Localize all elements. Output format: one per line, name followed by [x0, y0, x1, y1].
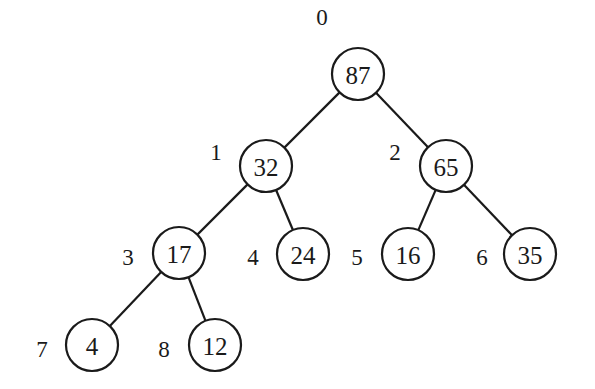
edge-1-3 [197, 184, 247, 234]
edge-3-8 [188, 277, 205, 321]
node-index-label: 5 [351, 245, 363, 270]
tree-node-4: 244 [247, 228, 329, 280]
tree-node-1: 321 [210, 140, 292, 193]
node-value: 12 [203, 333, 228, 360]
tree-edges [110, 92, 512, 326]
tree-node-8: 128 [158, 319, 241, 371]
heap-tree-diagram: 87032165217324416535647128 [0, 0, 595, 389]
node-value: 16 [396, 242, 421, 269]
node-value: 87 [346, 62, 371, 89]
tree-node-6: 356 [476, 228, 556, 280]
node-index-label: 6 [476, 245, 488, 270]
edge-1-4 [276, 190, 293, 230]
edge-0-1 [284, 92, 339, 147]
node-value: 4 [86, 333, 99, 360]
node-value: 17 [167, 241, 192, 268]
tree-nodes: 87032165217324416535647128 [36, 5, 556, 372]
edge-2-6 [464, 185, 512, 235]
node-index-label: 0 [316, 5, 328, 30]
edge-3-7 [110, 272, 161, 326]
node-value: 24 [291, 242, 317, 269]
tree-node-0: 870 [316, 5, 384, 101]
node-value: 32 [254, 154, 279, 181]
tree-node-7: 47 [36, 319, 118, 371]
node-index-label: 2 [389, 140, 401, 165]
edge-0-2 [376, 93, 428, 147]
tree-node-3: 173 [122, 227, 205, 279]
edge-2-5 [418, 190, 435, 230]
node-index-label: 8 [158, 337, 170, 362]
node-value: 35 [518, 242, 543, 269]
tree-node-5: 165 [351, 228, 434, 280]
node-index-label: 3 [122, 245, 134, 270]
tree-node-2: 652 [389, 140, 472, 193]
node-index-label: 4 [247, 245, 259, 270]
node-index-label: 7 [36, 337, 48, 362]
node-value: 65 [434, 154, 459, 181]
node-index-label: 1 [210, 140, 222, 165]
